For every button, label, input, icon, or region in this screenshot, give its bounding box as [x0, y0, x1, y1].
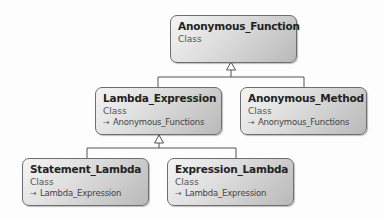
base-class: →Anonymous_Functions	[103, 117, 221, 128]
class-name: Statement_Lambda	[30, 163, 148, 175]
inheritance-arrow-icon: →	[248, 117, 258, 128]
base-class-name: Lambda_Expression	[185, 188, 266, 198]
base-class-name: Anonymous_Functions	[258, 117, 349, 127]
class-kind: Class	[103, 105, 221, 117]
class-kind: Class	[30, 176, 148, 188]
class-kind: Class	[178, 33, 296, 45]
class-box-anonymous-function[interactable]: Anonymous_Function Class	[170, 15, 297, 63]
connector-to-anonymous-function	[158, 62, 304, 87]
inheritance-arrow-icon: →	[103, 117, 113, 128]
connector-to-lambda-expression	[87, 135, 236, 158]
base-class-name: Anonymous_Functions	[113, 117, 204, 127]
class-name: Expression_Lambda	[175, 163, 293, 175]
class-box-expression-lambda[interactable]: Expression_Lambda Class →Lambda_Expressi…	[167, 158, 294, 206]
base-class: →Anonymous_Functions	[248, 117, 366, 128]
class-box-statement-lambda[interactable]: Statement_Lambda Class →Lambda_Expressio…	[22, 158, 149, 206]
class-box-lambda-expression[interactable]: Lambda_Expression Class →Anonymous_Funct…	[95, 87, 222, 135]
inheritance-arrow-icon: →	[30, 188, 40, 199]
base-class: →Lambda_Expression	[30, 188, 148, 199]
class-name: Lambda_Expression	[103, 92, 221, 104]
class-kind: Class	[248, 105, 366, 117]
class-diagram: Anonymous_Function Class Lambda_Expressi…	[0, 0, 383, 219]
generalization-triangle-icon	[155, 135, 164, 143]
base-class-name: Lambda_Expression	[40, 188, 121, 198]
class-name: Anonymous_Method	[248, 92, 366, 104]
class-name: Anonymous_Function	[178, 20, 296, 32]
inheritance-arrow-icon: →	[175, 188, 185, 199]
generalization-triangle-icon	[227, 62, 236, 70]
class-kind: Class	[175, 176, 293, 188]
class-box-anonymous-method[interactable]: Anonymous_Method Class →Anonymous_Functi…	[240, 87, 367, 135]
base-class: →Lambda_Expression	[175, 188, 293, 199]
